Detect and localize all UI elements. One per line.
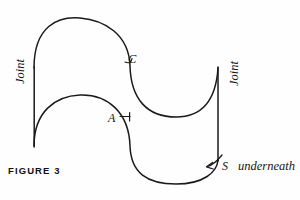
- label-point-a: A: [108, 112, 115, 124]
- label-joint-left: Joint: [14, 59, 27, 84]
- label-point-c: C: [128, 53, 136, 66]
- lower-s-curve: [34, 95, 218, 184]
- label-joint-right: Joint: [228, 61, 241, 86]
- figure-3-diagram: Joint Joint C A S underneath FIGURE 3: [0, 0, 300, 200]
- label-underneath: underneath: [238, 160, 295, 173]
- figure-caption: FIGURE 3: [8, 165, 61, 176]
- upper-s-curve: [34, 18, 218, 117]
- label-point-s: S: [222, 160, 228, 172]
